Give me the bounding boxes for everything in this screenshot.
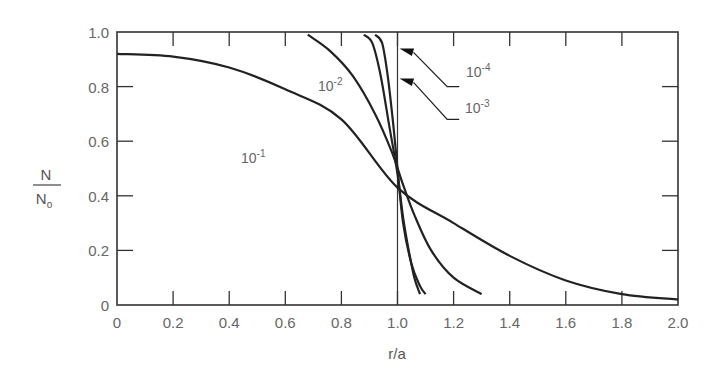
y-tick-label: 0.2 (88, 242, 109, 259)
y-tick-label: 1.0 (88, 24, 109, 41)
x-tick-label: 1.4 (499, 314, 520, 331)
arrowhead-icon (400, 78, 415, 86)
curve-10-2 (308, 35, 482, 294)
curve-label-10-2: 10-2 (318, 76, 343, 94)
curve-label-10-1: 10-1 (241, 148, 266, 166)
curve-10-3 (364, 35, 420, 294)
density-profile-chart: 00.20.40.60.81.01.21.41.61.82.000.20.40.… (0, 0, 722, 386)
y-tick-label: 0.6 (88, 133, 109, 150)
curve-10-4 (375, 35, 425, 294)
x-tick-label: 0.4 (219, 314, 240, 331)
annotation-arrows (400, 48, 460, 119)
x-tick-label: 1.0 (387, 314, 408, 331)
annotation-leader (414, 82, 460, 119)
x-axis-label: r/a (388, 345, 406, 362)
curves (117, 32, 678, 305)
x-tick-label: 0.8 (331, 314, 352, 331)
annotation-leader (414, 52, 460, 86)
curve-label-10-4: 10-4 (466, 62, 491, 80)
y-tick-label: 0.4 (88, 188, 109, 205)
y-tick-label: 0 (101, 297, 109, 314)
arrowhead-icon (400, 48, 415, 56)
y-axis-label: N No (33, 166, 61, 210)
x-tick-label: 0.2 (163, 314, 184, 331)
x-tick-label: 1.2 (443, 314, 464, 331)
y-tick-label: 0.8 (88, 79, 109, 96)
y-label-numerator: N (41, 166, 52, 183)
x-tick-label: 0 (113, 314, 121, 331)
x-tick-label: 1.8 (611, 314, 632, 331)
y-label-denominator: No (36, 190, 53, 210)
curve-label-10-3: 10-3 (465, 98, 490, 116)
x-tick-label: 1.6 (555, 314, 576, 331)
x-tick-label: 2.0 (668, 314, 689, 331)
x-tick-label: 0.6 (275, 314, 296, 331)
